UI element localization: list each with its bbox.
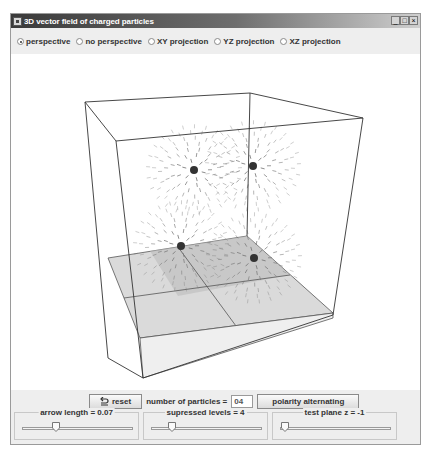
- view-mode-radio-group: perspective no perspective XY projection…: [17, 37, 341, 46]
- arrow-length-group: arrow length = 0.07: [14, 412, 139, 440]
- polarity-button[interactable]: polarity alternating: [257, 394, 359, 409]
- radio-perspective[interactable]: perspective: [17, 37, 70, 46]
- window-controls: _ □ ×: [391, 16, 418, 25]
- radio-dot-icon[interactable]: [17, 38, 24, 45]
- slider-panel: arrow length = 0.07 supressed levels = 4…: [14, 412, 397, 440]
- arrow-length-label: arrow length = 0.07: [38, 408, 115, 417]
- radio-xy-projection[interactable]: XY projection: [148, 37, 208, 46]
- app-window: 3D vector field of charged particles _ □…: [10, 13, 421, 445]
- test-plane-thumb[interactable]: [281, 422, 289, 432]
- radio-label: XZ projection: [289, 37, 340, 46]
- undo-arrow-icon: [100, 397, 109, 406]
- close-button[interactable]: ×: [409, 16, 418, 25]
- reset-button[interactable]: reset: [89, 394, 142, 409]
- supressed-levels-group: supressed levels = 4: [143, 412, 268, 440]
- minimize-button[interactable]: _: [391, 16, 400, 25]
- supressed-levels-thumb[interactable]: [168, 422, 176, 432]
- window-title: 3D vector field of charged particles: [24, 17, 154, 26]
- radio-label: perspective: [26, 37, 70, 46]
- 3d-scene-canvas[interactable]: [11, 54, 420, 390]
- supressed-levels-label: supressed levels = 4: [164, 408, 246, 417]
- charge-particle[interactable]: [177, 242, 185, 250]
- charge-particle[interactable]: [190, 166, 198, 174]
- arrow-length-thumb[interactable]: [52, 422, 60, 432]
- charge-particle[interactable]: [250, 254, 258, 262]
- control-row: reset number of particles = 04 polarity …: [89, 394, 359, 409]
- test-plane-group: test plane z = -1: [272, 412, 397, 440]
- particles-label: number of particles =: [146, 397, 227, 406]
- radio-dot-icon[interactable]: [76, 38, 83, 45]
- particles-count-input[interactable]: 04: [231, 395, 253, 408]
- app-icon: [13, 17, 22, 26]
- radio-label: no perspective: [85, 37, 141, 46]
- radio-label: YZ projection: [223, 37, 274, 46]
- radio-no-perspective[interactable]: no perspective: [76, 37, 141, 46]
- test-plane-slider[interactable]: [280, 427, 391, 430]
- reset-label: reset: [112, 397, 131, 406]
- maximize-button[interactable]: □: [400, 16, 409, 25]
- title-bar[interactable]: 3D vector field of charged particles _ □…: [11, 14, 420, 28]
- arrow-length-slider[interactable]: [22, 427, 133, 430]
- polarity-label: polarity alternating: [272, 397, 344, 406]
- radio-label: XY projection: [157, 37, 208, 46]
- radio-dot-icon[interactable]: [280, 38, 287, 45]
- test-plane-label: test plane z = -1: [303, 408, 367, 417]
- radio-xz-projection[interactable]: XZ projection: [280, 37, 340, 46]
- radio-dot-icon[interactable]: [214, 38, 221, 45]
- vector-field-render[interactable]: [11, 54, 420, 390]
- radio-yz-projection[interactable]: YZ projection: [214, 37, 274, 46]
- radio-dot-icon[interactable]: [148, 38, 155, 45]
- charge-particle[interactable]: [249, 162, 257, 170]
